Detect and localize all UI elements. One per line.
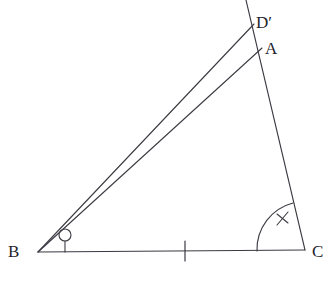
vertex-label-d-prime: D′: [256, 14, 272, 31]
geometry-figure: B C A D′: [0, 0, 336, 291]
vertex-label-a: A: [265, 40, 277, 57]
figure-background: [0, 0, 336, 291]
vertex-label-b: B: [8, 243, 19, 260]
diagram-canvas: [0, 0, 336, 291]
vertex-label-c: C: [312, 243, 323, 260]
